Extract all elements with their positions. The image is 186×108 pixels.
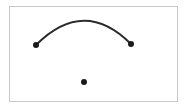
center-point-dot: [81, 79, 87, 85]
diagram-canvas: [0, 0, 186, 108]
right-endpoint-dot: [128, 41, 134, 47]
left-endpoint-dot: [33, 42, 39, 48]
arc-curve: [36, 21, 131, 45]
